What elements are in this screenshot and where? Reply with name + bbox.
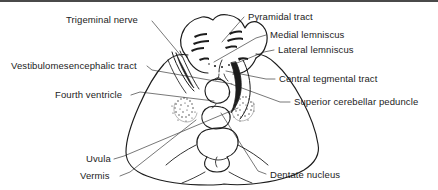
anatomy-outlines [126,15,318,185]
dentate-nucleus-left-stipple [171,97,195,121]
pontine-fiber-marks [191,31,248,61]
vermis-midline-notch [216,157,218,167]
label-uvula: Uvula [86,153,111,164]
dentate-left-outline [174,103,197,122]
label-medial-lemniscus: Medial lemniscus [270,29,344,40]
vermis [197,128,238,172]
leader-trigeminal-nerve [152,21,182,57]
label-trigeminal-nerve: Trigeminal nerve [66,14,138,25]
left-hemisphere-fissure [166,145,196,165]
right-tonsil-fissure [229,172,252,183]
label-pyramidal-tract: Pyramidal tract [248,11,313,22]
leader-central-tegmental-tract [226,71,275,79]
label-vestibulomesencephalic-tract: Vestibulomesencephalic tract [11,60,137,71]
anatomy-figure: Trigeminal nerve Vestibulomesencephalic … [0,0,438,190]
left-tonsil-fissure [182,172,205,183]
label-lateral-lemniscus: Lateral lemniscus [278,44,354,55]
label-fourth-ventricle: Fourth ventricle [55,89,122,100]
label-vermis: Vermis [80,170,110,181]
leader-dentate-nucleus [221,113,266,174]
vermis-fissure [207,157,228,160]
label-central-tegmental-tract: Central tegmental tract [279,73,377,84]
basilar-sulcus [219,60,222,72]
fourth-ventricle [205,79,230,103]
trigeminal-nerve-root [176,53,194,88]
label-superior-cerebellar-peduncle: Superior cerebellar peduncle [294,96,418,107]
leader-vermis [120,120,196,176]
label-dentate-nucleus: Dentate nucleus [270,169,340,180]
arbor-vitae-line-b [224,74,228,81]
right-hemisphere-fissure [238,145,268,165]
